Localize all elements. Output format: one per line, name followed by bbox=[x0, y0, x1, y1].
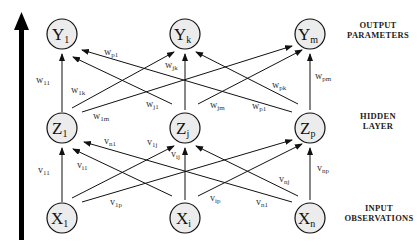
weight-wpm: wpm bbox=[315, 70, 332, 83]
hidden-layer-label: HIDDEN LAYER bbox=[338, 111, 417, 131]
weight-vij: vij bbox=[171, 148, 180, 161]
node-xn: Xn bbox=[295, 203, 325, 233]
hidden-label-line2: LAYER bbox=[338, 121, 417, 131]
hidden-label-line1: HIDDEN bbox=[338, 111, 417, 121]
weight-wjk: wjk bbox=[165, 59, 178, 72]
weight-vip: vip bbox=[210, 192, 221, 205]
flow-direction-arrow-icon bbox=[14, 12, 29, 240]
weight-v11: v11 bbox=[38, 164, 50, 177]
edge-zp-y1 bbox=[82, 50, 292, 112]
weight-wpk: wpk bbox=[272, 79, 287, 92]
input-to-hidden-edges bbox=[62, 140, 310, 202]
node-xi: Xi bbox=[170, 203, 200, 233]
edge-zj-ym bbox=[198, 50, 302, 104]
node-yk: Yk bbox=[170, 19, 200, 49]
weight-v1p: v1p bbox=[110, 196, 123, 209]
node-z1: Z1 bbox=[47, 113, 77, 143]
weight-vnp: vnp bbox=[317, 162, 330, 175]
weight-vn1: vn1 bbox=[256, 196, 269, 209]
weight-vi1: vi1 bbox=[77, 159, 88, 172]
weight-w1m: w1m bbox=[93, 110, 110, 123]
input-layer-label: INPUT OBSERVATIONS bbox=[340, 203, 417, 223]
weight-vn1-upper: vn1 bbox=[104, 135, 117, 148]
output-label-line2: PARAMETERS bbox=[338, 30, 417, 40]
edge-xi-zp bbox=[198, 144, 302, 196]
input-label-line2: OBSERVATIONS bbox=[340, 213, 417, 223]
edge-zj-y1 bbox=[73, 57, 172, 104]
output-label-line1: OUTPUT bbox=[338, 20, 417, 30]
node-zp: Zp bbox=[295, 113, 325, 143]
output-layer-label: OUTPUT PARAMETERS bbox=[338, 20, 417, 40]
weight-vnj: vnj bbox=[279, 173, 290, 186]
weight-w1k: w1k bbox=[71, 84, 86, 97]
weight-wj1: wj1 bbox=[146, 98, 159, 111]
edge-xn-z1 bbox=[84, 142, 292, 202]
node-x1: X1 bbox=[47, 203, 77, 233]
node-ym: Ym bbox=[295, 19, 325, 49]
input-label-line1: INPUT bbox=[340, 203, 417, 213]
edge-xi-z1 bbox=[73, 149, 172, 196]
weight-v1j: v1j bbox=[147, 136, 158, 149]
node-y1: Y1 bbox=[47, 19, 77, 49]
weight-wjm: wjm bbox=[210, 99, 225, 112]
weight-w11: w11 bbox=[36, 74, 50, 87]
node-zj: Zj bbox=[170, 113, 200, 143]
